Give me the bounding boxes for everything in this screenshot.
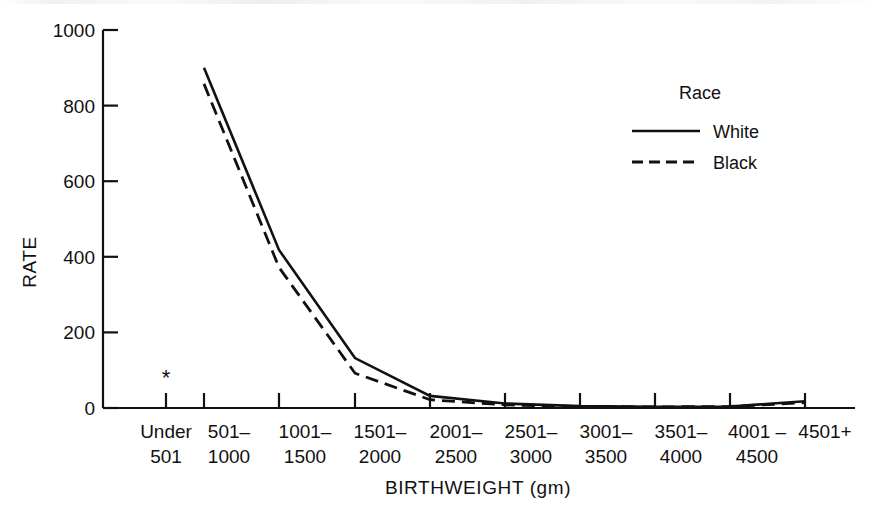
y-tick-label: 800 (63, 96, 95, 117)
y-tick-label: 1000 (53, 20, 95, 41)
legend-label-black: Black (713, 153, 758, 173)
y-tick-label: 400 (63, 247, 95, 268)
x-category-label-line1: 3501– (655, 421, 708, 442)
x-category-label-2001-2500: 2001– 2500 (430, 421, 483, 467)
asterisk-footnote-marker: * (162, 365, 171, 390)
scan-artifact-band (0, 0, 878, 4)
x-category-label-4001-4500: 4001 – 4500 (728, 421, 787, 467)
y-tick-400: 400 (63, 247, 118, 268)
chart-container: 1000 800 600 400 200 0 (0, 0, 878, 518)
legend-title: Race (679, 83, 721, 103)
x-category-label-line1: 1001– (279, 421, 332, 442)
x-category-label-line2: 4500 (736, 446, 778, 467)
x-category-label-line2: 1500 (284, 446, 326, 467)
x-category-label-line2: 3000 (510, 446, 552, 467)
x-category-label-3001-3500: 3001– 3500 (580, 421, 633, 467)
x-category-label-line1: 1501– (354, 421, 407, 442)
legend-entry-black[interactable]: Black (632, 153, 758, 173)
x-category-label-line2: 2000 (359, 446, 401, 467)
y-tick-800: 800 (63, 96, 118, 117)
y-axis-group: 1000 800 600 400 200 0 (53, 20, 118, 419)
series-group (204, 68, 805, 407)
x-category-label-under-501: Under 501 (140, 421, 192, 467)
legend: Race White Black (632, 83, 759, 173)
y-tick-200: 200 (63, 322, 118, 343)
y-tick-1000: 1000 (53, 20, 118, 41)
x-category-label-3501-4000: 3501– 4000 (655, 421, 708, 467)
x-category-label-line1: 2501– (505, 421, 558, 442)
x-category-label-line1: 2001– (430, 421, 483, 442)
x-category-label-line2: 1000 (208, 446, 250, 467)
x-category-label-line2: 3500 (585, 446, 627, 467)
x-category-label-line1: Under (140, 421, 192, 442)
x-category-label-line2: 501 (150, 446, 182, 467)
legend-entry-white[interactable]: White (632, 122, 759, 142)
x-category-label-4501-plus: 4501+ (798, 421, 851, 442)
x-category-label-line1: 3001– (580, 421, 633, 442)
y-tick-label: 200 (63, 322, 95, 343)
y-axis-title: RATE (19, 236, 40, 288)
legend-label-white: White (713, 122, 759, 142)
x-category-label-501-1000: 501– 1000 (208, 421, 251, 467)
x-category-label-1001-1500: 1001– 1500 (279, 421, 332, 467)
x-category-label-1501-2000: 1501– 2000 (354, 421, 407, 467)
x-axis-title: BIRTHWEIGHT (gm) (385, 477, 571, 498)
y-tick-label: 600 (63, 171, 95, 192)
series-line-white (204, 68, 805, 407)
y-tick-600: 600 (63, 171, 118, 192)
x-category-label-line1: 4501+ (798, 421, 851, 442)
x-category-label-line1: 4001 – (728, 421, 787, 442)
y-tick-label: 0 (84, 398, 95, 419)
x-category-label-line2: 2500 (435, 446, 477, 467)
x-category-label-2501-3000: 2501– 3000 (505, 421, 558, 467)
x-category-labels: Under 501 501– 1000 1001– 1500 1501– 200… (140, 421, 852, 467)
x-category-label-line1: 501– (208, 421, 251, 442)
line-chart-svg: 1000 800 600 400 200 0 (0, 0, 878, 518)
x-category-label-line2: 4000 (660, 446, 702, 467)
